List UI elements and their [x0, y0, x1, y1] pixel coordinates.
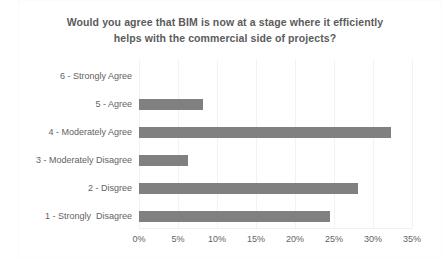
category-label: 1 - Strongly Disagree	[45, 202, 132, 230]
bar	[139, 127, 391, 138]
bar	[139, 183, 358, 194]
chart-row: 3 - Moderately Disagree	[139, 146, 412, 174]
chart-title-line-1: Would you agree that BIM is now at a sta…	[40, 14, 410, 30]
x-tick-label: 25%	[314, 234, 354, 244]
x-tick-label: 0%	[119, 234, 159, 244]
chart-row: 1 - Strongly Disagree	[139, 202, 412, 230]
x-tick-label: 35%	[392, 234, 432, 244]
x-tick-label: 5%	[158, 234, 198, 244]
x-tick-label: 20%	[275, 234, 315, 244]
chart-row: 6 - Strongly Agree	[139, 62, 412, 90]
chart-title-line-2: helps with the commercial side of projec…	[40, 30, 410, 46]
plot-area: 6 - Strongly Agree5 - Agree4 - Moderatel…	[139, 60, 412, 228]
x-tick-label: 10%	[197, 234, 237, 244]
chart-title: Would you agree that BIM is now at a sta…	[40, 14, 410, 46]
chart-row: 4 - Moderately Agree	[139, 118, 412, 146]
category-label: 2 - Disgree	[88, 174, 132, 202]
category-label: 3 - Moderately Disagree	[36, 146, 132, 174]
category-label: 4 - Moderately Agree	[48, 118, 132, 146]
x-tick-label: 30%	[353, 234, 393, 244]
category-label: 6 - Strongly Agree	[60, 62, 132, 90]
bar	[139, 155, 188, 166]
bar	[139, 211, 330, 222]
chart-row: 2 - Disgree	[139, 174, 412, 202]
bar-chart-figure: Would you agree that BIM is now at a sta…	[0, 0, 445, 268]
gridline-35pct	[412, 60, 413, 228]
x-tick-label: 15%	[236, 234, 276, 244]
bar	[139, 99, 203, 110]
category-label: 5 - Agree	[95, 90, 132, 118]
chart-row: 5 - Agree	[139, 90, 412, 118]
